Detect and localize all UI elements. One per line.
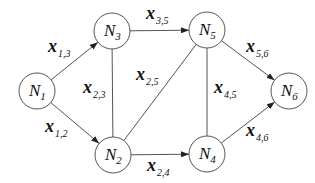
edge-label-e13: x1,3 — [47, 36, 71, 59]
edge-variable: x — [146, 155, 156, 175]
edge-variable: x — [213, 77, 223, 97]
edge-variable: x — [82, 77, 92, 97]
node-n6: N6 — [271, 73, 307, 109]
edge-label-e12: x1,2 — [44, 116, 68, 139]
edge-label-e24: x2,4 — [146, 155, 170, 178]
edge-subscript: 2,4 — [157, 167, 170, 178]
node-n5: N5 — [189, 12, 225, 48]
network-diagram: N1N2N3N4N5N6 x1,3x1,2x2,3x3,5x2,5x2,4x4,… — [0, 0, 315, 183]
edge-variable: x — [145, 3, 155, 23]
edge-variable: x — [44, 116, 54, 136]
nodes-layer: N1N2N3N4N5N6 — [19, 12, 307, 173]
edge-subscript: 4,6 — [256, 132, 269, 143]
edge-subscript: 1,3 — [58, 48, 71, 59]
edge-label-e25: x2,5 — [135, 64, 159, 87]
edge-variable: x — [47, 36, 57, 56]
edge-subscript: 2,5 — [146, 76, 159, 87]
edge-label-e35: x3,5 — [145, 3, 169, 26]
node-n1: N1 — [19, 73, 55, 109]
edge-variable: x — [245, 120, 255, 140]
edge-label-e46: x4,6 — [245, 120, 269, 143]
node-n4: N4 — [189, 136, 225, 172]
node-n3: N3 — [94, 13, 130, 49]
edge-label-e45: x4,5 — [213, 77, 237, 100]
node-n2: N2 — [95, 137, 131, 173]
edge-subscript: 4,5 — [224, 89, 237, 100]
edge-n3-n5 — [130, 30, 189, 31]
edge-n2-n5 — [124, 44, 196, 140]
edge-label-e23: x2,3 — [82, 77, 106, 100]
edge-label-e56: x5,6 — [245, 36, 269, 59]
edge-labels-layer: x1,3x1,2x2,3x3,5x2,5x2,4x4,5x5,6x4,6 — [44, 3, 269, 178]
edge-variable: x — [245, 36, 255, 56]
edge-n2-n3 — [112, 49, 113, 137]
edge-subscript: 5,6 — [256, 48, 269, 59]
edge-n2-n4 — [131, 154, 189, 155]
edge-subscript: 1,2 — [55, 128, 68, 139]
edge-subscript: 3,5 — [155, 15, 169, 26]
edge-variable: x — [135, 64, 145, 84]
edge-subscript: 2,3 — [93, 89, 106, 100]
